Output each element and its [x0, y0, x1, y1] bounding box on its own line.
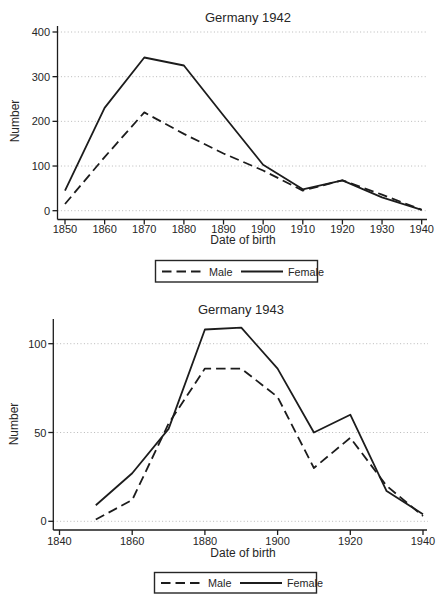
male-series-line	[96, 369, 423, 520]
chart-title-1942: Germany 1942	[205, 10, 291, 25]
x-axis-title-1943: Date of birth	[210, 546, 275, 560]
x-tick-label: 1940	[411, 535, 435, 547]
y-tick-label: 100	[28, 338, 46, 350]
x-tick-label: 1920	[338, 535, 362, 547]
plot-area-1943: 050100184018601880190019201940	[28, 319, 435, 547]
chart-germany-1943: 050100184018601880190019201940 Germany 1…	[7, 302, 435, 593]
y-tick-label: 300	[32, 71, 50, 83]
y-tick-label: 0	[40, 515, 46, 527]
x-tick-label: 1910	[291, 223, 315, 235]
chart-title-1943: Germany 1943	[198, 302, 284, 317]
x-tick-label: 1930	[370, 223, 394, 235]
x-tick-label: 1870	[132, 223, 156, 235]
y-tick-label: 100	[32, 160, 50, 172]
figure: 0100200300400185018601870188018901900191…	[0, 0, 438, 609]
male-series-line	[65, 112, 422, 209]
x-tick-label: 1880	[172, 223, 196, 235]
chart-germany-1942: 0100200300400185018601870188018901900191…	[8, 10, 434, 282]
x-tick-label: 1860	[120, 535, 144, 547]
legend-label-female: Female	[288, 266, 324, 278]
x-axis-title-1942: Date of birth	[210, 233, 275, 247]
legend-1943: Male Female	[155, 573, 324, 594]
female-series-line	[96, 328, 423, 515]
figure-canvas: 0100200300400185018601870188018901900191…	[0, 0, 438, 609]
x-tick-label: 1840	[47, 535, 71, 547]
plot-area-1942: 0100200300400185018601870188018901900191…	[32, 26, 434, 235]
x-tick-label: 1920	[330, 223, 354, 235]
y-tick-label: 200	[32, 115, 50, 127]
legend-1942: Male Female	[156, 261, 325, 283]
y-tick-label: 0	[44, 205, 50, 217]
x-tick-label: 1850	[53, 223, 77, 235]
female-series-line	[65, 58, 422, 210]
x-tick-label: 1860	[92, 223, 116, 235]
x-tick-label: 1940	[409, 223, 433, 235]
y-axis-title-1942: Number	[8, 100, 22, 143]
legend-label-male: Male	[209, 266, 232, 278]
legend-label-male: Male	[208, 577, 231, 589]
y-axis-title-1943: Number	[7, 403, 21, 446]
y-tick-label: 400	[32, 26, 50, 38]
y-tick-label: 50	[34, 427, 46, 439]
legend-label-female: Female	[287, 577, 323, 589]
